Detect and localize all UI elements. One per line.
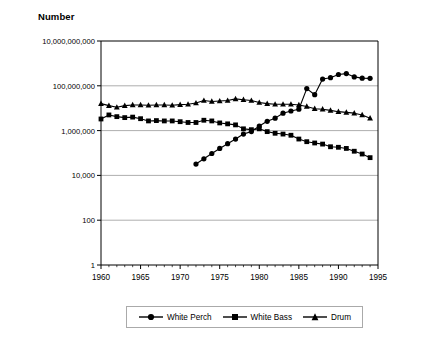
chart-figure: Number 10,000,000,000100,000,0001,000,00…: [0, 0, 421, 348]
x-tick-label: 1985: [290, 273, 308, 282]
x-tick-label: 1975: [211, 273, 229, 282]
legend-label: White Perch: [166, 313, 212, 322]
x-tick-label: 1965: [131, 273, 149, 282]
y-tick-label: 1: [91, 261, 95, 270]
legend-item-drum[interactable]: Drum: [302, 311, 351, 323]
y-tick-label: 10,000,000,000: [42, 37, 95, 46]
x-tick-label: 1970: [171, 273, 189, 282]
x-tick-label: 1990: [329, 273, 347, 282]
y-tick-label: 100,000,000: [53, 81, 95, 90]
legend-label: White Bass: [250, 313, 292, 322]
triangle-marker-icon: [302, 311, 328, 323]
y-tick-label: 100: [82, 216, 95, 225]
y-tick-label: 10,000: [72, 171, 95, 180]
legend-item-white-perch[interactable]: White Perch: [138, 311, 212, 323]
x-tick-label: 1980: [250, 273, 268, 282]
series-white-perch: [193, 71, 372, 167]
data-series-layer: [98, 71, 373, 167]
chart-legend: White PerchWhite BassDrum: [126, 306, 363, 328]
series-white-bass: [99, 113, 373, 161]
circle-marker-icon: [138, 311, 164, 323]
x-tick-label: 1960: [92, 273, 110, 282]
x-tick-label: 1995: [369, 273, 387, 282]
y-tick-label: 1,000,000: [61, 126, 95, 135]
legend-item-white-bass[interactable]: White Bass: [222, 311, 292, 323]
legend-label: Drum: [330, 313, 351, 322]
square-marker-icon: [222, 311, 248, 323]
plot-canvas: [0, 0, 421, 348]
